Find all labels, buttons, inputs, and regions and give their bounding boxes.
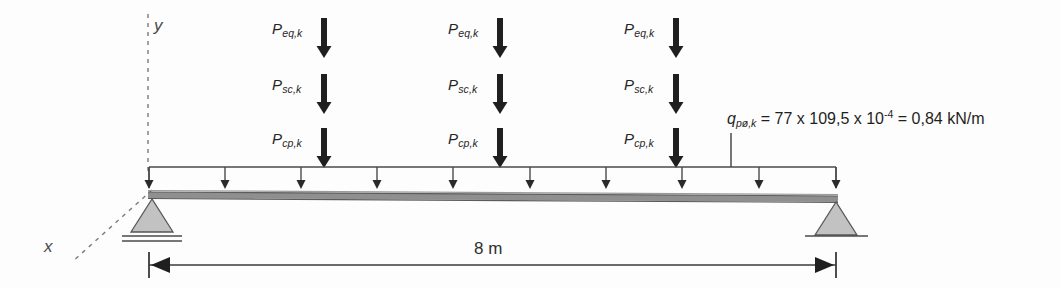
point-load-subscript: cp,k (634, 137, 654, 149)
point-load-arrow-sc-3 (669, 74, 684, 114)
point-load-symbol: P (624, 130, 634, 147)
point-load-subscript: sc,k (458, 83, 477, 95)
point-load-arrow-group-3 (669, 18, 684, 168)
distributed-load-symbol: q (727, 110, 736, 127)
point-load-subscript: cp,k (458, 137, 478, 149)
point-load-symbol: P (272, 20, 282, 37)
point-load-label-sc-1: Psc,k (272, 76, 301, 95)
point-load-label-eq-1: Peq,k (272, 20, 302, 39)
point-load-symbol: P (624, 76, 634, 93)
point-load-subscript: sc,k (634, 83, 653, 95)
point-load-arrow-sc-2 (493, 74, 508, 114)
point-load-subscript: sc,k (282, 83, 301, 95)
distributed-load-subscript: pø,k (736, 117, 756, 129)
point-load-symbol: P (272, 76, 282, 93)
point-load-subscript: cp,k (282, 137, 302, 149)
right-support (805, 202, 868, 236)
beam-loading-diagram: y x Peq,k Psc,k Pcp,k Peq,k Psc,k Pcp,k … (0, 0, 1061, 288)
point-load-arrow-cp-2 (493, 128, 508, 168)
distributed-load-group (145, 133, 841, 189)
distributed-load-result: = 0,84 kN/m (898, 110, 985, 127)
diagram-canvas (0, 0, 1061, 288)
point-load-label-sc-2: Psc,k (448, 76, 477, 95)
point-load-arrow-cp-1 (317, 128, 332, 168)
point-load-arrow-cp-3 (669, 128, 684, 168)
distributed-load-exponent: -4 (884, 108, 893, 120)
point-load-arrow-eq-3 (669, 18, 684, 58)
point-load-arrow-group-1 (317, 18, 332, 168)
span-dimension-label: 8 m (474, 239, 502, 259)
point-load-label-cp-1: Pcp,k (272, 130, 302, 149)
point-load-symbol: P (624, 20, 634, 37)
beam-member (148, 191, 838, 203)
x-axis-label: x (44, 237, 53, 257)
point-load-arrow-group-2 (493, 18, 508, 168)
distributed-load-arrows (145, 167, 841, 189)
point-load-arrow-sc-1 (317, 74, 332, 114)
point-load-label-eq-2: Peq,k (448, 20, 478, 39)
left-support (122, 199, 182, 241)
y-axis-label: y (154, 16, 163, 36)
point-load-subscript: eq,k (458, 27, 478, 39)
point-load-symbol: P (448, 76, 458, 93)
point-load-symbol: P (272, 130, 282, 147)
point-load-arrow-eq-2 (493, 18, 508, 58)
distributed-load-formula: qpø,k = 77 x 109,5 x 10-4 = 0,84 kN/m (727, 108, 984, 129)
point-load-subscript: eq,k (282, 27, 302, 39)
point-load-label-cp-3: Pcp,k (624, 130, 654, 149)
point-load-label-cp-2: Pcp,k (448, 130, 478, 149)
point-load-label-sc-3: Psc,k (624, 76, 653, 95)
point-load-label-eq-3: Peq,k (624, 20, 654, 39)
distributed-load-equation: = 77 x 109,5 x 10 (761, 110, 884, 127)
point-load-subscript: eq,k (634, 27, 654, 39)
point-load-symbol: P (448, 20, 458, 37)
point-load-arrow-eq-1 (317, 18, 332, 58)
point-load-symbol: P (448, 130, 458, 147)
